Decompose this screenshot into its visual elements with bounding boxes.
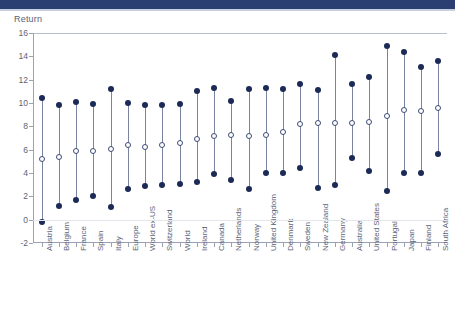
high-marker xyxy=(384,43,390,49)
high-marker xyxy=(177,101,183,107)
y-tick-mark xyxy=(29,150,33,151)
high-marker xyxy=(418,64,424,70)
average-marker xyxy=(297,121,303,127)
x-axis-label: Austria xyxy=(45,226,54,251)
low-marker xyxy=(246,186,252,192)
x-tick-mark xyxy=(318,243,319,247)
low-marker xyxy=(435,151,441,157)
average-marker xyxy=(401,107,407,113)
low-marker xyxy=(418,170,424,176)
average-marker xyxy=(384,113,390,119)
average-marker xyxy=(159,142,165,148)
y-tick-label: 2 xyxy=(2,191,28,201)
low-marker xyxy=(280,170,286,176)
high-marker xyxy=(159,102,165,108)
high-marker xyxy=(90,101,96,107)
y-tick-label: 12 xyxy=(2,75,28,85)
high-marker xyxy=(349,81,355,87)
low-marker xyxy=(384,188,390,194)
high-marker xyxy=(108,86,114,92)
average-marker xyxy=(418,108,424,114)
low-marker xyxy=(263,170,269,176)
average-marker xyxy=(349,120,355,126)
average-marker xyxy=(125,142,131,148)
average-marker xyxy=(108,146,114,152)
x-axis-label: Canada xyxy=(217,223,226,251)
x-axis-label: Ireland xyxy=(200,227,209,251)
x-tick-mark xyxy=(421,243,422,247)
x-axis-label: New Zealand xyxy=(321,204,330,251)
low-marker xyxy=(401,170,407,176)
high-marker xyxy=(142,102,148,108)
x-axis-label: Sweden xyxy=(303,222,312,251)
low-marker xyxy=(142,183,148,189)
y-tick-label: 16 xyxy=(2,28,28,38)
x-axis-label: Belgium xyxy=(62,222,71,251)
high-marker xyxy=(211,85,217,91)
high-marker xyxy=(125,100,131,106)
x-tick-mark xyxy=(93,243,94,247)
range-connector xyxy=(249,89,250,189)
average-marker xyxy=(39,156,45,162)
y-tick-mark xyxy=(29,33,33,34)
x-axis-label: Japan xyxy=(407,229,416,251)
x-axis-label: Italy xyxy=(114,236,123,251)
high-marker xyxy=(366,74,372,80)
average-marker xyxy=(73,148,79,154)
y-axis-title: Return xyxy=(14,14,42,24)
y-tick-mark xyxy=(29,103,33,104)
low-marker xyxy=(315,185,321,191)
x-axis-label: World ex-US xyxy=(148,206,157,251)
x-tick-mark xyxy=(76,243,77,247)
low-marker xyxy=(228,177,234,183)
high-marker xyxy=(401,49,407,55)
y-tick-mark xyxy=(29,80,33,81)
y-tick-mark xyxy=(29,196,33,197)
average-marker xyxy=(211,133,217,139)
average-marker xyxy=(56,154,62,160)
x-tick-mark xyxy=(387,243,388,247)
x-tick-mark xyxy=(197,243,198,247)
range-connector xyxy=(266,88,267,173)
x-tick-mark xyxy=(438,243,439,247)
high-marker xyxy=(435,58,441,64)
x-axis-label: World xyxy=(183,230,192,251)
high-marker xyxy=(315,87,321,93)
high-marker xyxy=(332,52,338,58)
high-marker xyxy=(73,99,79,105)
average-marker xyxy=(246,133,252,139)
range-connector xyxy=(421,67,422,173)
average-marker xyxy=(366,119,372,125)
x-tick-mark xyxy=(59,243,60,247)
x-tick-mark xyxy=(214,243,215,247)
y-tick-mark xyxy=(29,173,33,174)
average-marker xyxy=(90,148,96,154)
x-tick-mark xyxy=(128,243,129,247)
x-tick-mark xyxy=(162,243,163,247)
x-tick-mark xyxy=(180,243,181,247)
x-axis-label: Netherlands xyxy=(234,208,243,251)
x-tick-mark xyxy=(283,243,284,247)
header-band-shadow xyxy=(0,9,455,11)
x-tick-mark xyxy=(111,243,112,247)
zero-baseline xyxy=(33,220,447,221)
average-marker xyxy=(228,132,234,138)
header-band xyxy=(0,0,455,9)
return-range-chart: Return -20246810121416 AustriaBelgiumFra… xyxy=(0,0,455,335)
average-marker xyxy=(194,136,200,142)
x-axis-label: France xyxy=(79,226,88,251)
low-marker xyxy=(73,197,79,203)
low-marker xyxy=(108,204,114,210)
y-tick-mark xyxy=(29,56,33,57)
average-marker xyxy=(177,140,183,146)
x-tick-mark xyxy=(300,243,301,247)
low-marker xyxy=(366,168,372,174)
y-tick-mark xyxy=(29,126,33,127)
average-marker xyxy=(315,120,321,126)
low-marker xyxy=(332,182,338,188)
y-tick-label: 4 xyxy=(2,168,28,178)
high-marker xyxy=(56,102,62,108)
high-marker xyxy=(246,86,252,92)
high-marker xyxy=(263,85,269,91)
x-axis-label: Europe xyxy=(131,225,140,251)
